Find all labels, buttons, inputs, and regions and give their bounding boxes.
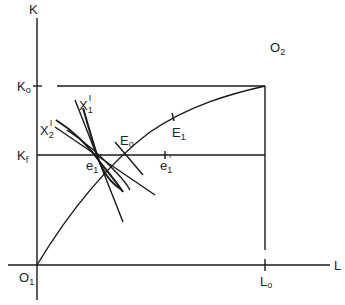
edgeworth-box-diagram: K L Ko Kf O1 O2 Lo Eo E1 e1 e1' X1I X2I — [0, 0, 345, 305]
x2-prime-label: X2I — [40, 118, 54, 140]
e1-lower-label: e1 — [86, 158, 98, 175]
x1-prime-label: X1I — [79, 93, 93, 115]
e1-prime-label: e1' — [160, 154, 172, 175]
o1-label: O1 — [19, 270, 34, 287]
kf-label: Kf — [17, 148, 29, 165]
contract-curve — [37, 86, 265, 265]
x-axis-label: L — [334, 258, 341, 273]
e1-upper-label: E1 — [172, 125, 186, 142]
e1-tick — [172, 113, 174, 121]
y-axis-label: K — [29, 2, 38, 17]
e0-label: Eo — [120, 133, 134, 149]
l0-label: Lo — [260, 274, 272, 290]
o2-label: O2 — [270, 40, 285, 57]
k0-label: Ko — [17, 79, 31, 95]
